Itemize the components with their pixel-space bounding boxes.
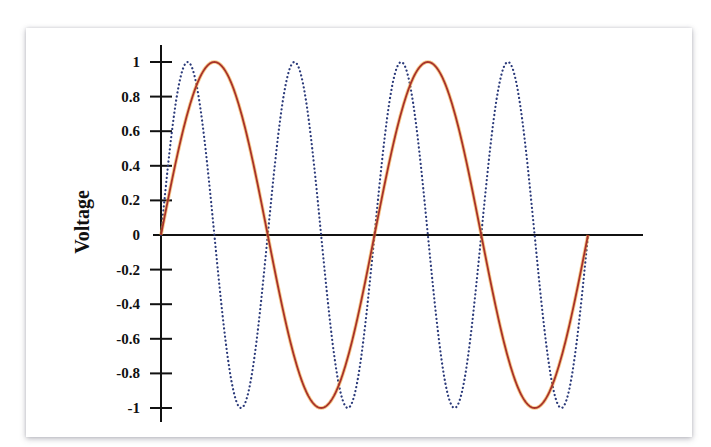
- y-tick-label: 0.4: [121, 158, 140, 174]
- y-tick-label: 0.8: [121, 89, 140, 105]
- voltage-chart: 10.80.60.40.20-0.2-0.4-0.6-0.8-1 Voltage: [0, 0, 711, 447]
- y-tick-label: -0.4: [116, 296, 140, 312]
- y-axis: 10.80.60.40.20-0.2-0.4-0.6-0.8-1: [116, 45, 172, 422]
- y-tick-label: -0.8: [116, 365, 140, 381]
- y-tick-label: -1: [128, 400, 141, 416]
- y-tick-label: 1: [133, 54, 141, 70]
- y-axis-label: Voltage: [71, 190, 94, 254]
- y-tick-label: 0: [133, 227, 141, 243]
- y-tick-label: 0.6: [121, 123, 140, 139]
- y-tick-label: 0.2: [121, 192, 140, 208]
- y-tick-label: -0.6: [116, 331, 140, 347]
- y-tick-label: -0.2: [116, 262, 140, 278]
